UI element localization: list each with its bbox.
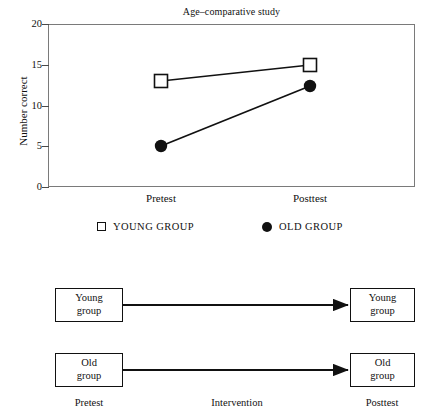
data-point-young-posttest (304, 59, 317, 72)
line-chart: Age–comparative study 0 5 10 15 20 Numbe… (0, 0, 436, 215)
flow-box-line2: group (77, 305, 102, 318)
chart-series-layer (0, 0, 436, 215)
flow-box-old-pretest: Old group (55, 353, 123, 387)
series-line-young (161, 65, 310, 81)
legend-item-old-group: OLD GROUP (262, 221, 343, 232)
flow-box-young-posttest: Young group (350, 288, 415, 322)
flow-box-line1: Old (81, 357, 97, 370)
data-point-young-pretest (155, 75, 168, 88)
series-line-old (161, 86, 310, 146)
flow-box-line1: Young (75, 292, 103, 305)
legend-item-young-group: YOUNG GROUP (97, 221, 194, 232)
flow-caption-posttest: Posttest (322, 397, 436, 408)
open-square-icon (97, 222, 106, 231)
data-point-old-posttest (304, 80, 316, 92)
flow-box-line2: group (77, 370, 102, 383)
data-point-old-pretest (155, 140, 167, 152)
chart-legend: YOUNG GROUP OLD GROUP (0, 221, 436, 243)
flow-box-old-posttest: Old group (350, 353, 415, 387)
study-design-diagram: Young group Young group Old group Old gr… (0, 270, 436, 419)
flow-caption-intervention: Intervention (177, 397, 297, 408)
flow-caption-pretest: Pretest (29, 397, 149, 408)
filled-circle-icon (262, 222, 272, 232)
legend-label-young-group: YOUNG GROUP (113, 221, 194, 232)
legend-label-old-group: OLD GROUP (279, 221, 343, 232)
flow-box-line1: Old (375, 357, 391, 370)
flow-box-line2: group (370, 370, 395, 383)
flow-box-young-pretest: Young group (55, 288, 123, 322)
flow-box-line1: Young (369, 292, 397, 305)
flow-box-line2: group (370, 305, 395, 318)
